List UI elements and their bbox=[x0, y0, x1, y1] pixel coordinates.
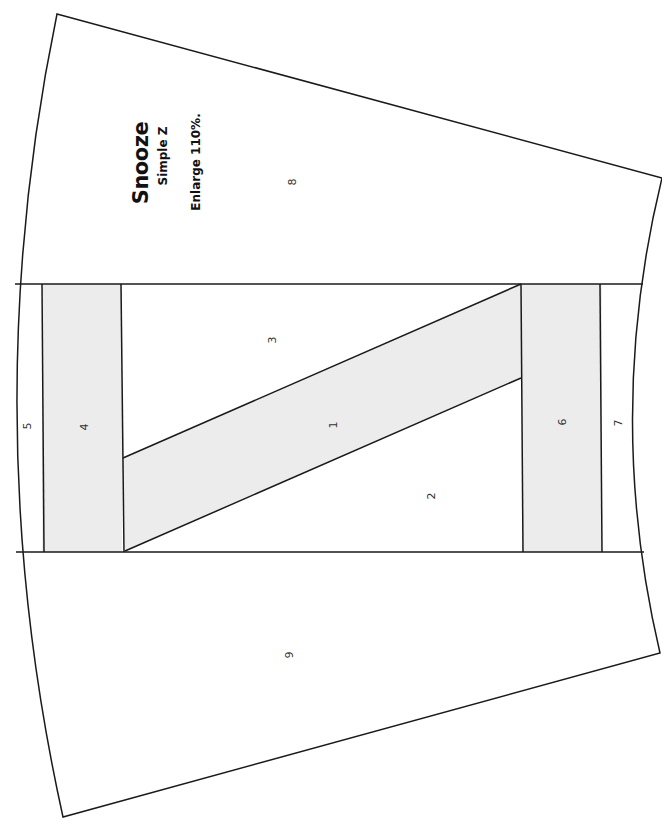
paper-piecing-pattern bbox=[0, 0, 662, 830]
piece-label-6: 6 bbox=[556, 419, 569, 426]
piece-label-3: 3 bbox=[266, 337, 279, 344]
pattern-title: Snooze bbox=[129, 122, 153, 204]
piece-label-7: 7 bbox=[612, 420, 625, 427]
piece-label-2: 2 bbox=[425, 493, 438, 500]
piece-label-9: 9 bbox=[283, 652, 296, 659]
piece-4-area bbox=[42, 284, 122, 552]
enlarge-note: Enlarge 110%. bbox=[189, 113, 203, 210]
piece-label-5: 5 bbox=[21, 423, 34, 430]
piece-label-4: 4 bbox=[78, 424, 91, 431]
piece-label-1: 1 bbox=[327, 422, 340, 429]
pattern-subtitle: Simple Z bbox=[156, 127, 170, 186]
piece-label-8: 8 bbox=[286, 179, 299, 186]
